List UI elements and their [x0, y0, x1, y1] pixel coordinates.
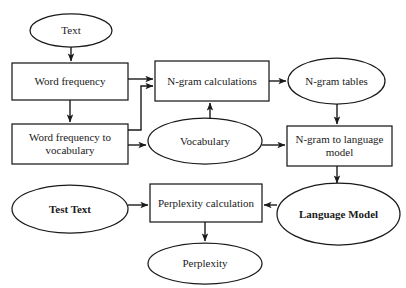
node-shape-test-text [12, 185, 128, 233]
flowchart-diagram: Text Word frequency Word frequency to vo… [0, 0, 406, 288]
node-shape-ngram-to-lm [287, 126, 392, 166]
node-shape-perplexity [148, 243, 262, 284]
node-shape-wf-to-vocab [12, 124, 128, 164]
edge-wf-to-vocab-to-ngram-calc [128, 86, 153, 130]
node-shape-language-model [277, 183, 400, 245]
node-shape-ngram-tables [288, 58, 385, 104]
node-shape-text [30, 14, 112, 47]
node-shape-ngram-calc [155, 61, 269, 101]
flowchart-canvas [0, 0, 406, 288]
node-shape-perplexity-calc [150, 184, 262, 222]
node-shape-word-frequency [12, 63, 128, 100]
node-shape-vocabulary [148, 118, 262, 164]
